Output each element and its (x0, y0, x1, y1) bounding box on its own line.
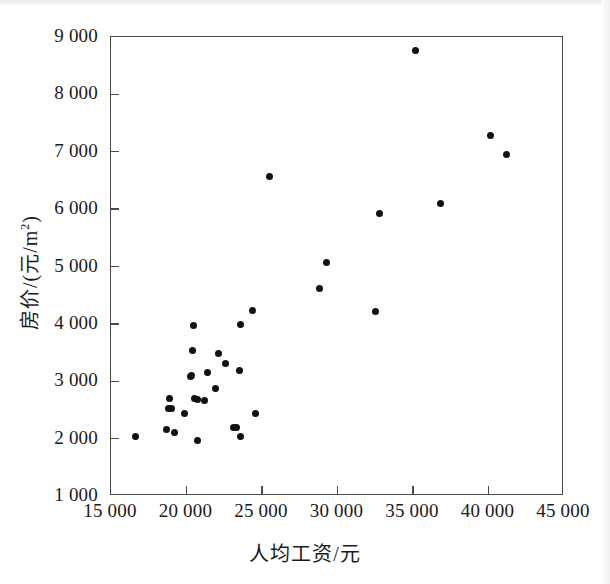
x-tick-label: 35 000 (385, 500, 438, 522)
data-point (171, 429, 178, 436)
data-point (437, 200, 444, 207)
y-axis-tick (111, 208, 119, 209)
data-point (233, 424, 240, 431)
data-point (189, 347, 196, 354)
data-point (316, 285, 323, 292)
y-axis-tick (111, 381, 119, 382)
y-axis-tick (111, 323, 119, 324)
data-point (376, 210, 383, 217)
x-axis-tick (488, 486, 489, 494)
plot-area (110, 36, 563, 495)
data-point (132, 433, 139, 440)
data-point (166, 395, 173, 402)
y-axis-title-main: 房价/(元/m (19, 230, 41, 330)
y-tick-label: 9 000 (0, 25, 98, 47)
data-point (252, 410, 259, 417)
data-point (194, 437, 201, 444)
data-point (503, 151, 510, 158)
x-axis-tick (261, 486, 262, 494)
data-point (188, 372, 195, 379)
data-point (249, 307, 256, 314)
data-point (204, 369, 211, 376)
x-axis-tick (412, 486, 413, 494)
y-axis-title: 房价/(元/m2) (14, 123, 43, 423)
x-axis-tick (186, 486, 187, 494)
y-tick-label: 8 000 (0, 82, 98, 104)
data-point (181, 410, 188, 417)
y-axis-tick (111, 438, 119, 439)
x-tick-label: 30 000 (310, 500, 363, 522)
y-axis-title-tail: ) (19, 215, 41, 223)
data-point (222, 360, 229, 367)
data-point (372, 308, 379, 315)
scatter-chart-figure: 15 00020 00025 00030 00035 00040 00045 0… (0, 0, 610, 584)
data-point (190, 322, 197, 329)
x-tick-label: 20 000 (159, 500, 212, 522)
y-axis-title-exponent: 2 (18, 223, 32, 230)
y-axis-tick (111, 266, 119, 267)
data-point (487, 132, 494, 139)
data-point (215, 350, 222, 357)
y-tick-label: 2 000 (0, 427, 98, 449)
data-point (201, 397, 208, 404)
x-tick-label: 40 000 (461, 500, 514, 522)
data-point (266, 173, 273, 180)
y-axis-tick (111, 94, 119, 95)
data-point (237, 433, 244, 440)
x-axis-tick (337, 486, 338, 494)
x-tick-label: 25 000 (234, 500, 287, 522)
data-point (163, 426, 170, 433)
x-axis-title: 人均工资/元 (0, 538, 610, 567)
y-tick-label: 1 000 (0, 484, 98, 506)
data-point (412, 47, 419, 54)
data-point (236, 367, 243, 374)
x-tick-label: 45 000 (536, 500, 589, 522)
data-point (323, 259, 330, 266)
data-point (194, 396, 201, 403)
y-axis-tick (111, 151, 119, 152)
data-point (168, 405, 175, 412)
data-point (237, 321, 244, 328)
data-point (212, 385, 219, 392)
